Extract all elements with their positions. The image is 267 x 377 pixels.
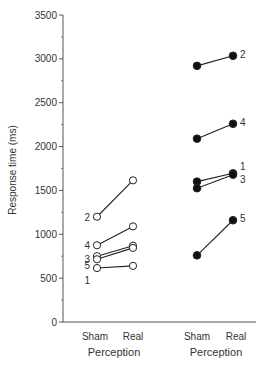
- filled-circle-marker: [229, 216, 237, 224]
- y-tick-label: 2000: [35, 141, 58, 152]
- series-label: 1: [84, 275, 90, 286]
- y-tick-label: 2500: [35, 97, 58, 108]
- series-label: 5: [240, 213, 246, 224]
- x-group-label-2: Perception: [190, 346, 243, 358]
- filled-circle-marker: [193, 62, 201, 70]
- open-circle-marker: [129, 262, 136, 269]
- x-label-real-1: Real: [123, 331, 144, 342]
- open-circle-marker: [93, 256, 100, 263]
- open-circle-marker: [93, 264, 100, 271]
- y-axis: 0500100015002000250030003500: [35, 10, 63, 328]
- series-label: 4: [84, 240, 90, 251]
- open-circle-marker: [93, 242, 100, 249]
- open-circle-marker: [129, 244, 136, 251]
- y-tick-label: 1500: [35, 185, 58, 196]
- x-label-sham-2: Sham: [184, 331, 210, 342]
- response-time-chart: 0500100015002000250030003500 24351 24135…: [0, 0, 267, 377]
- open-circle-marker: [93, 213, 100, 220]
- y-tick-label: 500: [40, 273, 57, 284]
- filled-circle-marker: [229, 171, 237, 179]
- series-label: 1: [240, 161, 246, 172]
- x-label-real-2: Real: [226, 331, 247, 342]
- filled-circle-marker: [193, 252, 201, 260]
- series-label: 5: [84, 260, 90, 271]
- filled-circle-group: 24135: [193, 49, 246, 259]
- filled-circle-marker: [229, 120, 237, 128]
- filled-circle-marker: [193, 135, 201, 143]
- series-label: 2: [84, 212, 90, 223]
- x-group-label-1: Perception: [88, 346, 141, 358]
- filled-circle-marker: [229, 52, 237, 60]
- series-label: 3: [240, 174, 246, 185]
- series-label: 2: [240, 49, 246, 60]
- y-tick-label: 3000: [35, 53, 58, 64]
- y-axis-label: Response time (ms): [7, 125, 18, 214]
- y-tick-label: 1000: [35, 229, 58, 240]
- y-tick-label: 3500: [35, 10, 58, 21]
- y-tick-label: 0: [51, 317, 57, 328]
- open-circle-group: 24351: [84, 177, 136, 286]
- open-circle-marker: [129, 177, 136, 184]
- open-circle-marker: [129, 223, 136, 230]
- x-label-sham-1: Sham: [82, 331, 108, 342]
- filled-circle-marker: [193, 184, 201, 192]
- series-label: 4: [240, 117, 246, 128]
